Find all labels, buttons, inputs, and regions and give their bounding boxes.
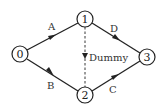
arrowhead-icon [112, 34, 120, 41]
edge-label-c: C [109, 84, 117, 95]
activity-network-diagram: A B D C Dummy 0 1 2 3 [0, 0, 168, 109]
node-3: 3 [139, 49, 155, 65]
node-label-2: 2 [82, 89, 89, 102]
node-label-3: 3 [144, 51, 151, 64]
arrowhead-icon [82, 53, 88, 59]
edge-label-a: A [47, 21, 56, 32]
node-label-1: 1 [82, 13, 89, 26]
edge-label-b: B [47, 80, 54, 91]
node-2: 2 [77, 87, 93, 103]
node-label-0: 0 [17, 48, 24, 61]
edge-label-dummy: Dummy [89, 52, 128, 63]
node-0: 0 [12, 46, 28, 62]
edge-label-d: D [110, 23, 118, 34]
edge-d: D [92, 23, 140, 53]
edge-c: C [92, 61, 140, 95]
edge-a: A [27, 21, 78, 50]
node-1: 1 [77, 11, 93, 27]
edge-dummy: Dummy [82, 27, 128, 87]
edge-b: B [27, 59, 78, 91]
arrowhead-icon [48, 35, 56, 41]
